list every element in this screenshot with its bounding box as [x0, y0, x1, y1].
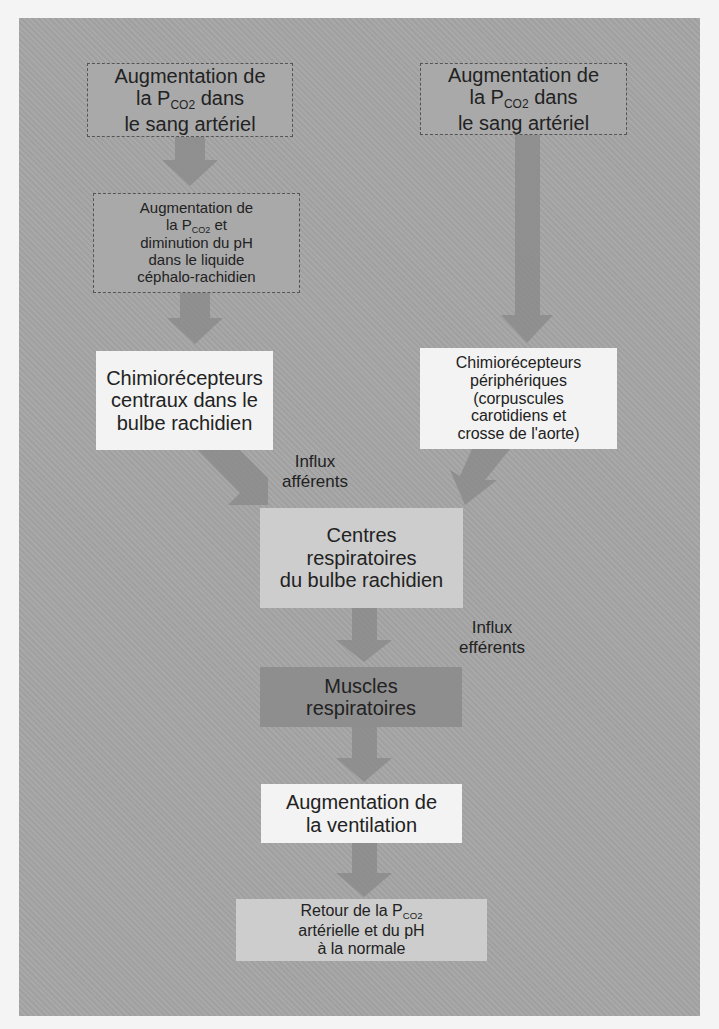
arrow-down-icon — [336, 608, 392, 662]
node-csf: Augmentation de la PCO2 et diminution du… — [93, 193, 300, 293]
node-increased-ventilation: Augmentation de la ventilation — [261, 784, 462, 843]
arrow-diagonal-icon — [198, 450, 268, 505]
node-text: Augmentation de — [114, 65, 265, 87]
node-pco2-blood-right: Augmentation de la PCO2 dans le sang art… — [420, 63, 627, 135]
node-respiratory-centres: Centres respiratoires du bulbe rachidien — [260, 508, 463, 608]
arrow-down-icon — [167, 293, 223, 344]
node-central-chemoreceptors: Chimiorécepteurs centraux dans le bulbe … — [96, 351, 273, 450]
node-peripheral-chemoreceptors: Chimiorécepteurs périphériques (corpuscu… — [420, 348, 617, 449]
arrow-down-icon — [162, 137, 218, 186]
arrow-diagonal-icon — [450, 449, 510, 505]
label-efferent: Influx efférents — [447, 618, 537, 657]
arrow-down-icon — [336, 843, 392, 897]
arrow-down-icon — [336, 727, 392, 782]
node-return-to-normal: Retour de la PCO2 artérielle et du pH à … — [236, 899, 487, 961]
node-pco2-blood-left: Augmentation de la PCO2 dans le sang art… — [87, 63, 293, 137]
node-respiratory-muscles: Muscles respiratoires — [260, 667, 462, 727]
arrow-down-icon — [501, 135, 553, 343]
label-afferent: Influx afférents — [270, 452, 360, 491]
